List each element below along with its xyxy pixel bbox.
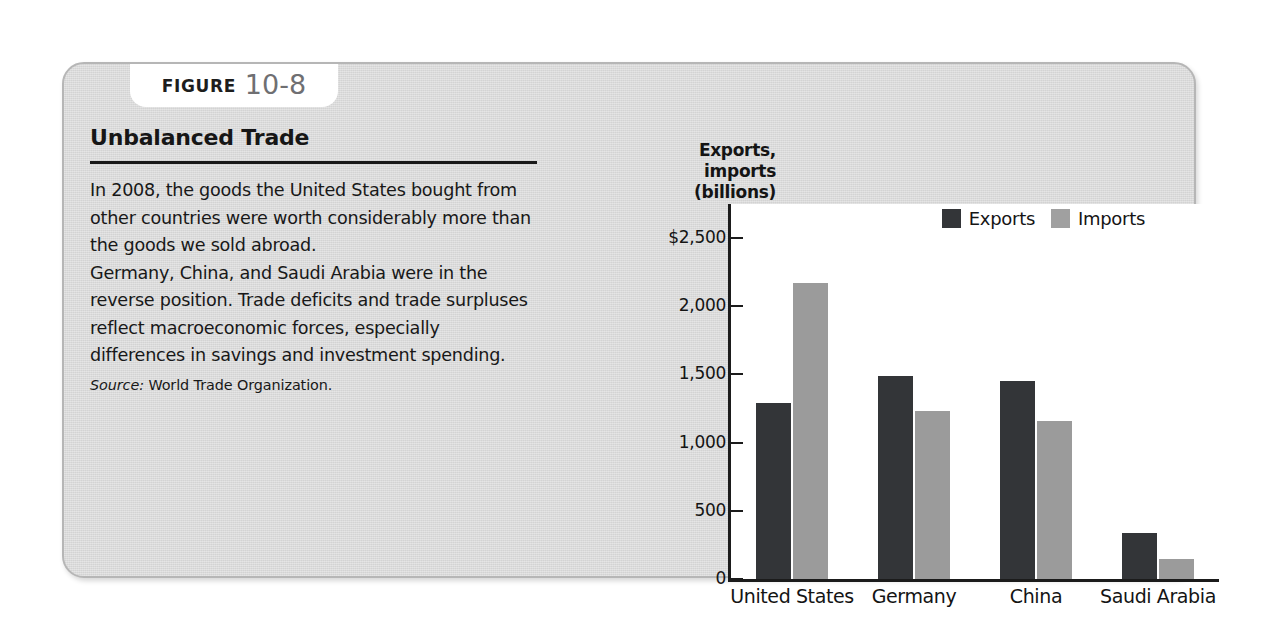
bar-imports-china [1037, 421, 1072, 579]
figure-body-text: In 2008, the goods the United States bou… [90, 177, 534, 370]
y-axis-tick-label: 1,500 [621, 363, 726, 383]
y-axis-tick-label: 500 [621, 500, 726, 520]
x-axis-labels: United StatesGermanyChinaSaudi Arabia [728, 585, 1222, 617]
source-label: Source: [90, 377, 144, 393]
y-axis-title-line-2: imports [666, 161, 776, 182]
figure-text-column: Unbalanced Trade In 2008, the goods the … [90, 126, 560, 393]
y-axis-title-line-3: (billions) [666, 182, 776, 203]
figure-tab-number: 10-8 [245, 71, 306, 98]
x-axis-line [728, 579, 1219, 582]
y-axis-tick-label: 1,000 [621, 432, 726, 452]
body-paragraph-1: In 2008, the goods the United States bou… [90, 177, 534, 260]
y-axis-title: Exports, imports (billions) [666, 140, 776, 203]
y-axis-tick-label: $2,500 [621, 227, 726, 247]
bar-imports-saudi-arabia [1159, 559, 1194, 579]
bar-exports-germany [878, 376, 913, 579]
source-text: World Trade Organization. [148, 377, 332, 393]
source-line: Source: World Trade Organization. [90, 377, 560, 393]
y-axis-title-line-1: Exports, [666, 140, 776, 161]
bar-exports-china [1000, 381, 1035, 579]
bar-chart: Exports, imports (billions) Exports Impo… [666, 140, 1161, 560]
page-title: Unbalanced Trade [90, 126, 560, 150]
bar-imports-germany [915, 411, 950, 579]
bar-exports-saudi-arabia [1122, 533, 1157, 579]
title-divider [90, 161, 537, 164]
bar-exports-united-states [756, 403, 791, 579]
figure-tab-word: FIGURE [162, 76, 236, 96]
figure-page: FIGURE 10-8 Unbalanced Trade In 2008, th… [0, 0, 1262, 625]
y-axis-tick-label: 2,000 [621, 295, 726, 315]
figure-card: FIGURE 10-8 Unbalanced Trade In 2008, th… [62, 62, 1196, 578]
bars-layer [731, 204, 1219, 579]
bar-imports-united-states [793, 283, 828, 579]
figure-tab: FIGURE 10-8 [130, 64, 338, 107]
x-axis-label: Saudi Arabia [1068, 585, 1248, 607]
body-paragraph-2: Germany, China, and Saudi Arabia were in… [90, 260, 534, 370]
